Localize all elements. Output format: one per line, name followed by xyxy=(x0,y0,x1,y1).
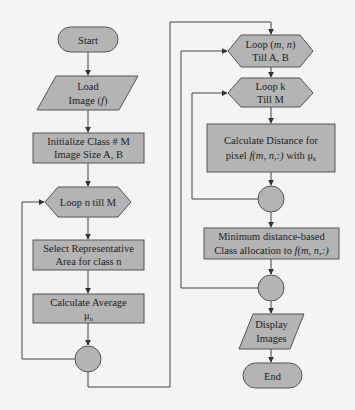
initialize-label-line1: Initialize Class # M xyxy=(47,136,130,147)
distance-label-line1: Calculate Distance for xyxy=(224,135,318,146)
load-label-line2: Image (f) xyxy=(69,95,108,107)
min-distance-label-line2: Class allocation to f(m, n,:) xyxy=(214,245,329,257)
loop-k-junction xyxy=(258,186,284,212)
display-label-line1: Display xyxy=(255,319,288,330)
min-distance-allocation-process: Minimum distance-based Class allocation … xyxy=(204,228,339,259)
calculate-distance-process: Calculate Distance for pixel f(m, n,:) w… xyxy=(207,124,335,172)
loop-mn-label-line2: Till A, B xyxy=(252,52,289,63)
loop-mn-label-line1: Loop (m, n) xyxy=(246,39,296,51)
loop-mn-preparation: Loop (m, n) Till A, B xyxy=(228,35,313,67)
load-image-io: Load Image (f) xyxy=(37,76,138,110)
end-label: End xyxy=(264,371,282,382)
end-terminal: End xyxy=(243,363,302,388)
select-label-line2: Area for class n xyxy=(55,256,122,267)
loop-n-preparation: Loop n till M xyxy=(45,187,131,217)
loop-n-junction xyxy=(75,346,101,372)
calculate-average-process: Calculate Average μn xyxy=(33,294,144,323)
flowchart: Start Load Image (f) Initialize Class # … xyxy=(0,0,355,410)
initialize-label-line2: Image Size A, B xyxy=(54,149,123,160)
initialize-process: Initialize Class # M Image Size A, B xyxy=(33,133,144,163)
loop-mn-junction xyxy=(258,275,284,301)
display-label-line2: Images xyxy=(256,333,286,344)
average-label-line1: Calculate Average xyxy=(50,297,127,308)
loop-k-preparation: Loop k Till M xyxy=(228,78,313,107)
start-label: Start xyxy=(78,35,98,46)
loop-n-label: Loop n till M xyxy=(60,197,117,208)
min-distance-label-line1: Minimum distance-based xyxy=(218,231,325,242)
load-label-line1: Load xyxy=(77,81,99,92)
select-label-line1: Select Representative xyxy=(43,243,134,254)
loop-k-label-line1: Loop k xyxy=(255,81,286,92)
loop-k-label-line2: Till M xyxy=(257,94,284,105)
select-area-process: Select Representative Area for class n xyxy=(33,240,144,270)
display-images-io: Display Images xyxy=(239,314,304,349)
loop-n-return-line xyxy=(22,202,76,359)
start-terminal: Start xyxy=(58,27,118,52)
